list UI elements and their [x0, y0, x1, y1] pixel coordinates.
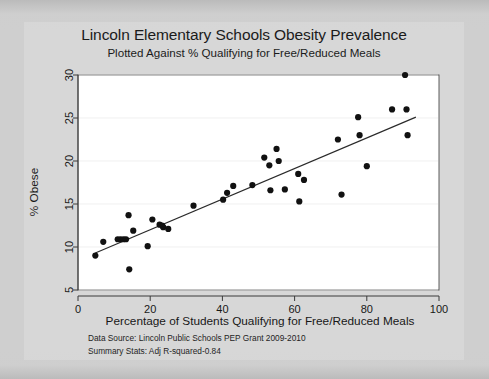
data-point [403, 106, 409, 112]
x-axis: 020406080100 [75, 296, 448, 315]
data-point [276, 158, 282, 164]
data-point [335, 136, 341, 142]
data-point [145, 243, 151, 249]
data-point [220, 197, 226, 203]
data-point [296, 198, 302, 204]
plot-frame [78, 75, 439, 290]
data-point [338, 191, 344, 197]
data-point [282, 186, 288, 192]
chart-panel: Lincoln Elementary Schools Obesity Preva… [24, 22, 464, 360]
scatter-plot: 51015202530 020406080100 % Obese Percent… [24, 22, 464, 360]
y-axis: 51015202530 [63, 69, 78, 293]
data-point [402, 72, 408, 78]
data-point [273, 146, 279, 152]
data-point [404, 132, 410, 138]
figure-canvas: Lincoln Elementary Schools Obesity Preva… [0, 0, 489, 379]
data-point [266, 162, 272, 168]
footnote-summary-stats: Summary Stats: Adj R-squared-0.84 [88, 346, 221, 356]
data-point [130, 228, 136, 234]
y-axis-title: % Obese [27, 167, 41, 216]
data-point [190, 203, 196, 209]
y-tick-label: 20 [63, 155, 75, 167]
data-point [100, 239, 106, 245]
data-point [249, 182, 255, 188]
y-tick-label: 15 [63, 198, 75, 210]
data-point [92, 253, 98, 259]
data-point [301, 177, 307, 183]
x-tick-label: 0 [75, 303, 81, 315]
data-point [295, 171, 301, 177]
y-tick-label: 25 [63, 112, 75, 124]
data-point [356, 132, 362, 138]
x-axis-title: Percentage of Students Qualifying for Fr… [106, 314, 415, 328]
y-tick-label: 5 [63, 287, 75, 293]
data-point [224, 190, 230, 196]
x-tick-label: 100 [430, 303, 448, 315]
data-point [267, 187, 273, 193]
data-point [355, 114, 361, 120]
data-point [165, 226, 171, 232]
footnote-data-source: Data Source: Lincoln Public Schools PEP … [88, 333, 306, 343]
y-tick-label: 30 [63, 69, 75, 81]
y-tick-label: 10 [63, 241, 75, 253]
data-point [126, 266, 132, 272]
data-point [364, 163, 370, 169]
data-point [149, 216, 155, 222]
data-point [261, 154, 267, 160]
data-point [123, 236, 129, 242]
data-point [389, 106, 395, 112]
data-point [230, 183, 236, 189]
data-point [125, 212, 131, 218]
